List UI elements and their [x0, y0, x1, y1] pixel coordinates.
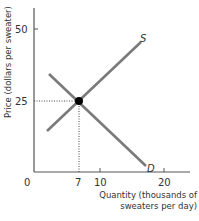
supply-label: S: [140, 33, 147, 44]
supply-demand-chart: S D 50 25 0 7 10 20 Quantity (thousands …: [0, 0, 199, 221]
y-tick-label-50: 50: [15, 24, 28, 35]
demand-curve: [49, 74, 146, 166]
x-tick-label-10: 10: [94, 177, 107, 188]
equilibrium-point: [75, 97, 83, 105]
x-axis-label-line1: Quantity (thousands of: [99, 190, 198, 200]
x-tick-label-7: 7: [75, 177, 81, 188]
y-tick-label-25: 25: [15, 96, 28, 107]
x-tick-label-20: 20: [158, 177, 171, 188]
x-tick-label-0: 0: [24, 177, 30, 188]
x-axis-label-line2: sweaters per day): [120, 201, 197, 211]
demand-label: D: [147, 163, 155, 174]
y-axis-label: Price (dollars per sweater): [3, 6, 13, 118]
